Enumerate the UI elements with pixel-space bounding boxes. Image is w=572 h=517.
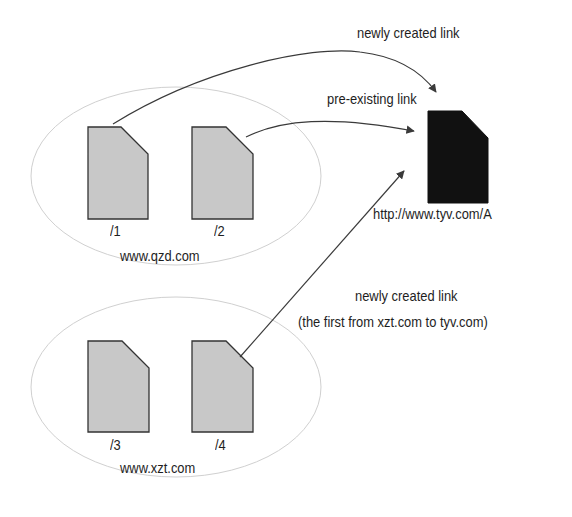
page-2-label: /2	[214, 222, 225, 239]
link-arrow-2-to-target	[246, 121, 414, 137]
page-2-doc-icon[interactable]	[192, 127, 253, 219]
site-qzd-label: www.qzd.com	[120, 247, 200, 264]
site-xzt-ellipse	[31, 297, 321, 477]
link-label-newly-created: newly created link	[357, 24, 460, 41]
page-4-doc-icon[interactable]	[192, 341, 253, 432]
page-3-label: /3	[110, 436, 121, 453]
target-doc-icon[interactable]	[428, 111, 488, 203]
link-label-4-line1: newly created link	[355, 287, 458, 304]
page-4-label: /4	[215, 436, 226, 453]
page-1-label: /1	[110, 222, 121, 239]
page-3-doc-icon[interactable]	[88, 341, 149, 432]
link-label-4-line2: (the first from xzt.com to tyv.com)	[298, 313, 488, 330]
site-qzd-ellipse	[31, 87, 321, 265]
link-label-pre-existing: pre-existing link	[327, 90, 417, 107]
page-1-doc-icon[interactable]	[88, 127, 148, 219]
link-diagram	[0, 0, 572, 517]
site-xzt-label: www.xzt.com	[120, 459, 195, 476]
target-url-label: http://www.tyv.com/A	[373, 205, 492, 222]
